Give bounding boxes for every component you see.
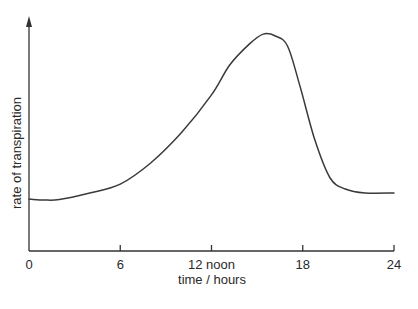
transpiration-chart: 0612 noon1824 time / hours rate of trans… bbox=[0, 0, 418, 309]
x-axis-title: time / hours bbox=[178, 272, 246, 287]
x-tick-label: 24 bbox=[387, 257, 401, 272]
axes bbox=[26, 16, 394, 251]
x-tick-label: 18 bbox=[296, 257, 310, 272]
x-tick-label: 12 noon bbox=[188, 257, 235, 272]
y-axis-arrow-icon bbox=[26, 16, 32, 27]
curve-layer bbox=[29, 34, 394, 201]
transpiration-curve bbox=[29, 34, 394, 201]
x-tick-label: 6 bbox=[117, 257, 124, 272]
x-ticks: 0612 noon1824 bbox=[25, 245, 401, 272]
y-axis-title: rate of transpiration bbox=[9, 97, 24, 209]
x-tick-label: 0 bbox=[25, 257, 32, 272]
